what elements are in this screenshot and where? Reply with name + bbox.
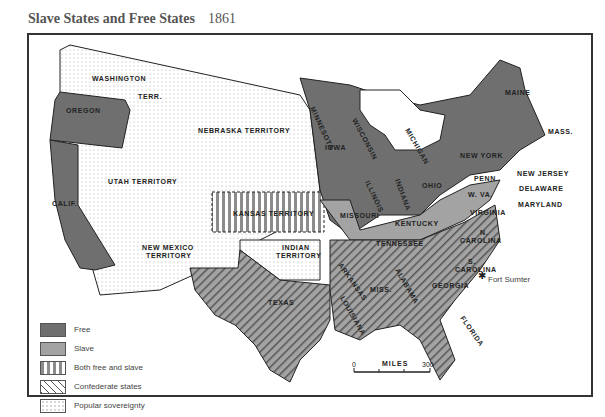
legend-item-popular: Popular sovereignty <box>40 396 145 415</box>
swatch-popular-icon <box>40 399 66 413</box>
scale-start: 0 <box>352 361 356 368</box>
swatch-confederate-icon <box>40 380 66 394</box>
swatch-both-icon <box>40 361 66 375</box>
legend-item-confederate: Confederate states <box>40 377 145 396</box>
legend-item-both: Both free and slave <box>40 358 145 377</box>
label-fort-sumter: Fort Sumter <box>488 275 530 284</box>
scale-bar: 0 MILES 300 <box>352 358 452 378</box>
swatch-slave-icon <box>40 342 66 356</box>
legend-item-free: Free <box>40 320 145 339</box>
legend: Free Slave Both free and slave Confedera… <box>40 320 145 415</box>
swatch-free-icon <box>40 323 66 337</box>
legend-item-slave: Slave <box>40 339 145 358</box>
scale-unit: MILES <box>382 360 408 367</box>
scale-end: 300 <box>422 361 434 368</box>
